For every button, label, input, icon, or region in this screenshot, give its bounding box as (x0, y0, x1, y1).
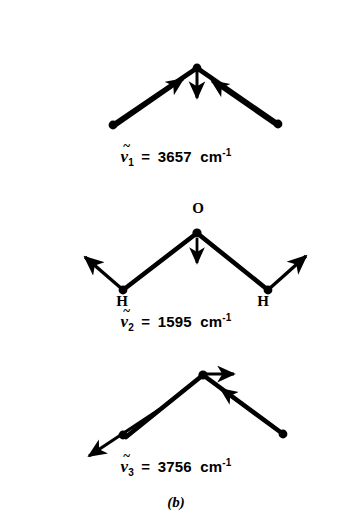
bond-lines-panel-2 (123, 233, 268, 290)
arrow-hydrogen-left-panel-1 (114, 79, 183, 127)
wavenumber-value-2: 1595 (158, 313, 192, 330)
equals-sign-3: = (141, 458, 150, 475)
unit-exponent-3: -1 (222, 457, 231, 468)
molecule-diagrams-canvas (0, 0, 352, 527)
unit-text-1: cm (200, 148, 222, 165)
panel-bend (85, 228, 306, 294)
tilde-accent-3: ~ (123, 449, 130, 462)
arrow-hydrogen-left-panel-2 (85, 257, 122, 289)
bond-line-left-panel-3 (126, 375, 203, 437)
arrow-hydrogen-right-panel-1 (212, 81, 277, 126)
unit-text-2: cm (200, 313, 222, 330)
wavenumber-value-3: 3756 (158, 458, 192, 475)
panel-symmetric-stretch (109, 64, 283, 130)
panel-asymmetric-stretch (89, 370, 287, 456)
tilde-accent-2: ~ (123, 304, 130, 317)
atom-label-hydrogen-right: H (253, 293, 273, 310)
equals-sign-2: = (141, 313, 150, 330)
wavenumber-unit-3: cm-1 (200, 458, 231, 475)
water-vibrational-modes-figure: O H H ~ν1 = 3657 cm-1 ~ν2 = 1595 cm-1 ~ν… (0, 0, 352, 527)
atom-oxygen-panel-2 (192, 228, 201, 237)
mode-index-1: 1 (128, 157, 134, 168)
arrow-hydrogen-right-panel-3 (221, 389, 281, 432)
wavenumber-value-1: 3657 (158, 148, 192, 165)
wavenumber-symbol-2: ~ν2 (120, 312, 134, 333)
atom-oxygen-panel-1 (193, 64, 202, 73)
figure-panel-caption: (b) (0, 494, 352, 511)
mode-label-asymmetric-stretch: ~ν3 = 3756 cm-1 (0, 457, 352, 478)
atom-label-oxygen: O (188, 200, 208, 217)
mode-label-bend: ~ν2 = 1595 cm-1 (0, 312, 352, 333)
unit-text-3: cm (200, 458, 222, 475)
tilde-accent-1: ~ (123, 139, 130, 152)
wavenumber-unit-2: cm-1 (200, 313, 231, 330)
mode-index-3: 3 (128, 467, 134, 478)
arrow-hydrogen-right-panel-2 (269, 256, 306, 289)
wavenumber-unit-1: cm-1 (200, 148, 231, 165)
unit-exponent-1: -1 (222, 147, 231, 158)
mode-index-2: 2 (128, 322, 134, 333)
unit-exponent-2: -1 (222, 312, 231, 323)
wavenumber-symbol-1: ~ν1 (120, 147, 134, 168)
equals-sign-1: = (141, 148, 150, 165)
mode-label-symmetric-stretch: ~ν1 = 3657 cm-1 (0, 147, 352, 168)
wavenumber-symbol-3: ~ν3 (120, 457, 134, 478)
atom-hydrogen-left-panel-3 (119, 431, 128, 440)
